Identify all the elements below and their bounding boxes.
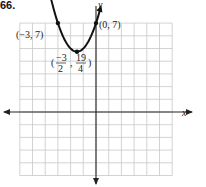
vertex-label: ( −3 2 , 19 4 ) [51,52,91,74]
svg-text:4: 4 [78,63,83,74]
svg-text:,: , [70,57,73,68]
svg-text:2: 2 [58,63,63,74]
y-axis-label: y [97,0,103,10]
svg-text:): ) [88,57,91,69]
data-point [56,21,60,25]
svg-text:(: ( [51,57,55,69]
problem-number: 66. [0,0,15,11]
x-axis-label: x [181,107,187,118]
data-point [94,21,98,25]
point-label-right: (0, 7) [99,19,121,31]
svg-text:−3: −3 [56,52,67,63]
graph: 66. x y (−3, 7) (0, 7) ( −3 2 , 19 4 ) [0,0,206,187]
point-label-left: (−3, 7) [16,29,43,41]
parabola-curve [47,0,100,52]
svg-text:19: 19 [76,52,86,63]
